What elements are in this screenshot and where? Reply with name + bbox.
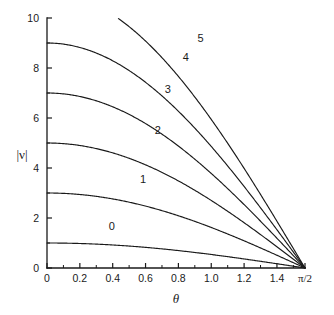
x-tick-label: 1.2 xyxy=(237,272,252,284)
y-tick-label: 4 xyxy=(33,162,39,174)
chart-plot-area: 0246810 00.20.40.60.81.01.21.4π/2 012345… xyxy=(0,0,334,315)
chart-figure: 0246810 00.20.40.60.81.01.21.4π/2 012345… xyxy=(0,0,334,315)
y-tick-label: 2 xyxy=(33,212,39,224)
x-tick-label: 1.4 xyxy=(270,272,285,284)
curve-label-0: 0 xyxy=(109,220,115,232)
curve-label-4: 4 xyxy=(183,51,189,63)
x-axis-title: θ xyxy=(173,291,180,306)
x-tick-label: 0.2 xyxy=(73,272,88,284)
curve-label-5: 5 xyxy=(198,32,204,44)
curve-4 xyxy=(47,43,305,268)
curve-2 xyxy=(47,143,305,268)
x-axis-tick-labels: 00.20.40.60.81.01.21.4π/2 xyxy=(44,272,312,284)
y-tick-label: 0 xyxy=(33,262,39,274)
curve-3 xyxy=(47,93,305,268)
y-axis-tick-labels: 0246810 xyxy=(27,12,39,274)
x-tick-label: 0.6 xyxy=(138,272,153,284)
curve-label-1: 1 xyxy=(140,173,146,185)
x-tick-label-pi-over-2: π/2 xyxy=(298,272,312,284)
curve-labels: 012345 xyxy=(109,32,204,232)
y-axis-title: |ν| xyxy=(16,147,27,162)
curve-label-2: 2 xyxy=(155,124,161,136)
data-curves xyxy=(47,19,305,268)
curve-label-3: 3 xyxy=(165,83,171,95)
x-tick-label: 0 xyxy=(44,272,50,284)
y-tick-label: 10 xyxy=(27,12,39,24)
x-tick-label: 1.0 xyxy=(204,272,219,284)
curve-0 xyxy=(47,243,305,268)
axes xyxy=(47,18,305,268)
y-tick-label: 8 xyxy=(33,62,39,74)
x-axis-ticks xyxy=(47,263,305,268)
x-tick-label: 0.8 xyxy=(171,272,186,284)
y-tick-label: 6 xyxy=(33,112,39,124)
x-tick-label: 0.4 xyxy=(105,272,120,284)
